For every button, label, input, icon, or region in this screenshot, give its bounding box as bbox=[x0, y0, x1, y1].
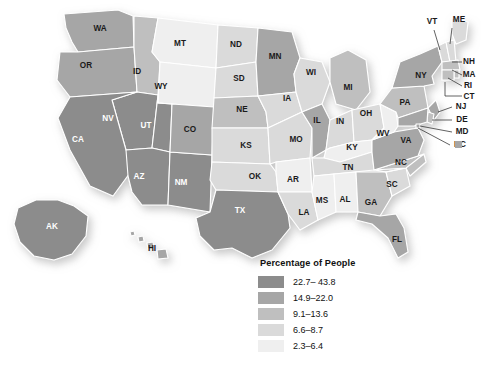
state-OK bbox=[210, 162, 278, 192]
state-HI-1 bbox=[130, 231, 135, 236]
state-label-UT: UT bbox=[141, 121, 152, 130]
state-label-HI: HI bbox=[148, 244, 156, 253]
legend-swatch-1 bbox=[258, 292, 284, 304]
state-label-KY: KY bbox=[346, 143, 358, 152]
legend-swatch-4 bbox=[258, 340, 284, 352]
legend-label-4: 2.3–6.4 bbox=[293, 341, 323, 351]
state-label-NY: NY bbox=[415, 71, 427, 80]
legend-swatch-0 bbox=[258, 276, 284, 288]
state-label-OH: OH bbox=[360, 109, 372, 118]
state-label-SD: SD bbox=[233, 74, 244, 83]
callout-label-CT: CT bbox=[464, 92, 475, 101]
state-HI-2 bbox=[138, 236, 144, 242]
state-label-ID: ID bbox=[133, 67, 141, 76]
state-label-VA: VA bbox=[401, 136, 412, 145]
state-label-AR: AR bbox=[287, 175, 299, 184]
state-label-MS: MS bbox=[316, 196, 329, 205]
state-MI bbox=[330, 50, 370, 110]
state-label-CO: CO bbox=[184, 125, 197, 134]
state-label-NC: NC bbox=[395, 158, 407, 167]
state-label-PA: PA bbox=[400, 98, 411, 107]
state-label-OR: OR bbox=[80, 61, 92, 70]
legend-title: Percentage of People bbox=[260, 258, 408, 268]
legend-swatch-2 bbox=[258, 308, 284, 320]
state-label-LA: LA bbox=[299, 208, 310, 217]
callout-label-NH: NH bbox=[463, 57, 475, 66]
state-label-MO: MO bbox=[289, 135, 303, 144]
state-MN bbox=[256, 28, 300, 96]
state-NY bbox=[392, 46, 442, 88]
state-label-MN: MN bbox=[269, 52, 282, 61]
state-MA bbox=[442, 60, 460, 70]
callout-label-DE: DE bbox=[456, 115, 468, 124]
legend-rows: 22.7– 43.814.9–22.09.1–13.66.6–8.72.3–6.… bbox=[258, 274, 408, 353]
state-WI bbox=[294, 58, 330, 112]
state-label-TX: TX bbox=[235, 206, 246, 215]
legend-label-2: 9.1–13.6 bbox=[293, 309, 328, 319]
legend-swatch-3 bbox=[258, 324, 284, 336]
choropleth-map-figure: WAORIDMTWYNVCAUTAZNMCONDSDNEKSOKTXMNIAMO… bbox=[0, 0, 493, 368]
state-label-ND: ND bbox=[230, 40, 242, 49]
state-label-WI: WI bbox=[306, 68, 316, 77]
state-label-CA: CA bbox=[72, 135, 84, 144]
state-GA bbox=[356, 172, 392, 216]
legend-label-1: 14.9–22.0 bbox=[293, 293, 333, 303]
state-label-MT: MT bbox=[174, 39, 186, 48]
map-legend: Percentage of People 22.7– 43.814.9–22.0… bbox=[258, 258, 408, 354]
callout-label-ME: ME bbox=[453, 15, 466, 24]
dc-swatch bbox=[455, 141, 462, 148]
callout-label-RI: RI bbox=[464, 81, 472, 90]
callout-label-MA: MA bbox=[463, 70, 476, 79]
state-label-WA: WA bbox=[93, 24, 106, 33]
state-OR bbox=[57, 47, 137, 97]
state-CT bbox=[442, 70, 454, 80]
legend-label-0: 22.7– 43.8 bbox=[293, 277, 336, 287]
legend-row-1: 14.9–22.0 bbox=[258, 290, 408, 305]
state-label-FL: FL bbox=[392, 235, 402, 244]
state-AL bbox=[334, 172, 358, 212]
state-label-AZ: AZ bbox=[134, 172, 145, 181]
legend-row-3: 6.6–8.7 bbox=[258, 322, 408, 337]
state-label-NV: NV bbox=[102, 114, 114, 123]
state-label-MI: MI bbox=[343, 83, 352, 92]
callout-label-NJ: NJ bbox=[456, 102, 466, 111]
state-label-IA: IA bbox=[283, 94, 291, 103]
callout-label-VT: VT bbox=[427, 17, 437, 26]
state-DC bbox=[416, 124, 420, 128]
legend-row-4: 2.3–6.4 bbox=[258, 338, 408, 353]
legend-row-2: 9.1–13.6 bbox=[258, 306, 408, 321]
legend-label-3: 6.6–8.7 bbox=[293, 325, 323, 335]
state-label-NM: NM bbox=[175, 178, 188, 187]
state-HI-4 bbox=[157, 249, 168, 259]
state-label-SC: SC bbox=[386, 180, 397, 189]
state-label-OK: OK bbox=[249, 172, 261, 181]
legend-row-0: 22.7– 43.8 bbox=[258, 274, 408, 289]
us-map-svg: WAORIDMTWYNVCAUTAZNMCONDSDNEKSOKTXMNIAMO… bbox=[0, 0, 493, 368]
callout-label-MD: MD bbox=[456, 127, 469, 136]
state-label-GA: GA bbox=[365, 198, 377, 207]
state-label-IL: IL bbox=[313, 116, 320, 125]
state-label-AK: AK bbox=[46, 222, 58, 231]
state-label-WY: WY bbox=[154, 82, 168, 91]
state-label-AL: AL bbox=[340, 195, 351, 204]
state-label-TN: TN bbox=[343, 163, 354, 172]
state-label-NE: NE bbox=[236, 105, 248, 114]
state-label-IN: IN bbox=[336, 117, 344, 126]
state-label-KS: KS bbox=[240, 141, 252, 150]
state-label-WV: WV bbox=[376, 129, 390, 138]
